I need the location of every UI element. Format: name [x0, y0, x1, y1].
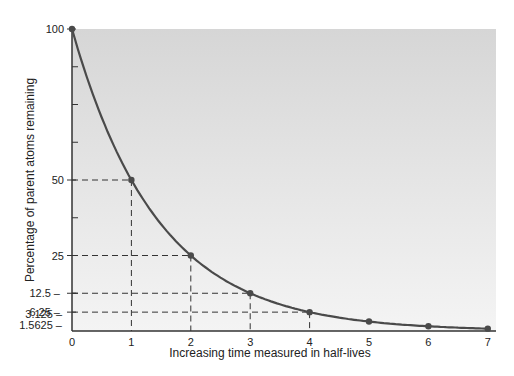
x-axis-title: Increasing time measured in half-lives [169, 346, 370, 360]
y-tick-label: 100 [46, 23, 64, 35]
plot-area [72, 29, 496, 331]
x-tick-label: 6 [425, 336, 431, 348]
y-tick-label: 25 [52, 250, 64, 262]
y-tick-label: 1.5625 – [19, 319, 63, 331]
half-life-decay-chart: 01234567 100502512.5 –6.25 –3.125 –1.562… [0, 0, 514, 376]
x-tick-label: 1 [128, 336, 134, 348]
data-point [188, 252, 194, 258]
y-axis-title: Percentage of parent atoms remaining [23, 78, 37, 282]
data-point [247, 290, 253, 296]
data-point [425, 323, 431, 329]
data-point [485, 325, 491, 331]
x-tick-label: 7 [485, 336, 491, 348]
data-point [128, 177, 134, 183]
data-point [69, 26, 75, 32]
data-point [306, 309, 312, 315]
y-tick-label: 50 [52, 174, 64, 186]
x-tick-label: 0 [69, 336, 75, 348]
y-tick-label: 12.5 – [29, 287, 60, 299]
data-point [366, 318, 372, 324]
